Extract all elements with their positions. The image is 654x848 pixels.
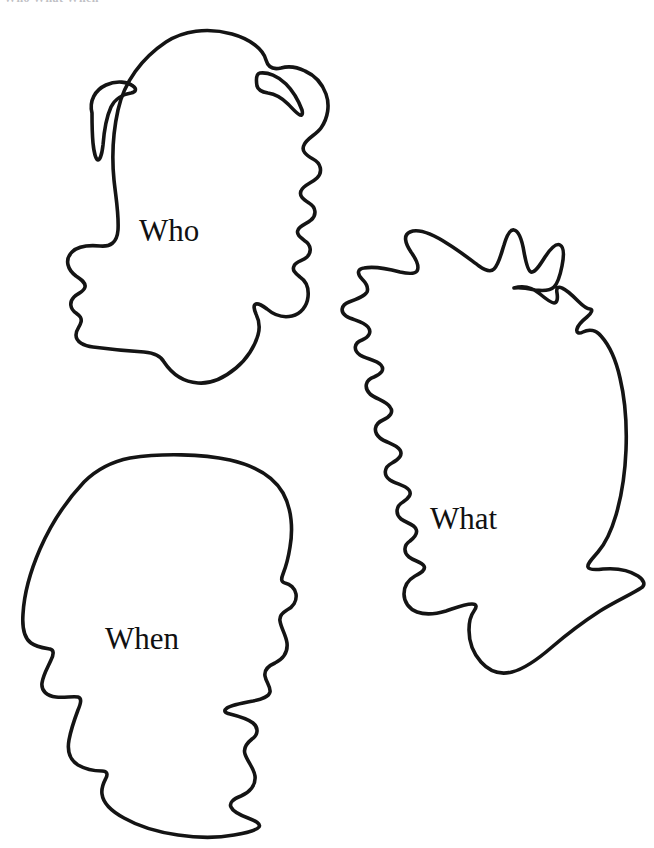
face-label-who: Who (139, 215, 199, 246)
face-profile-wavy-hair-icon (68, 31, 328, 384)
faces-artboard (0, 0, 654, 848)
worksheet-page: Who What When Who What When (0, 0, 654, 848)
face-profile-spiky-hair-icon (342, 230, 644, 673)
what-outline (342, 230, 644, 673)
who-hair-wisp-right (256, 73, 302, 115)
face-label-what: What (430, 503, 497, 534)
face-label-when: When (105, 623, 179, 654)
